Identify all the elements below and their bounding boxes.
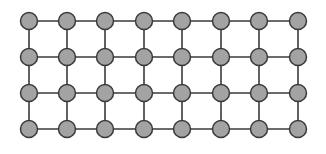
graph-node xyxy=(290,13,307,30)
edges-layer xyxy=(29,21,298,129)
graph-node xyxy=(21,85,38,102)
graph-node xyxy=(213,13,230,30)
graph-node xyxy=(136,121,153,138)
graph-node xyxy=(290,85,307,102)
graph-node xyxy=(21,49,38,66)
grid-graph-diagram xyxy=(0,0,326,154)
graph-node xyxy=(174,85,191,102)
graph-node xyxy=(136,85,153,102)
graph-node xyxy=(251,49,268,66)
graph-node xyxy=(251,121,268,138)
graph-node xyxy=(174,49,191,66)
graph-node xyxy=(290,49,307,66)
graph-node xyxy=(97,121,114,138)
graph-node xyxy=(59,121,76,138)
graph-node xyxy=(136,13,153,30)
graph-node xyxy=(21,121,38,138)
graph-node xyxy=(136,49,153,66)
graph-node xyxy=(213,121,230,138)
graph-node xyxy=(21,13,38,30)
graph-node xyxy=(59,13,76,30)
graph-node xyxy=(59,85,76,102)
nodes-layer xyxy=(21,13,307,138)
graph-node xyxy=(174,121,191,138)
graph-node xyxy=(97,13,114,30)
graph-node xyxy=(174,13,191,30)
graph-node xyxy=(59,49,76,66)
graph-node xyxy=(213,85,230,102)
graph-node xyxy=(97,85,114,102)
graph-node xyxy=(97,49,114,66)
graph-node xyxy=(251,85,268,102)
graph-node xyxy=(213,49,230,66)
graph-node xyxy=(290,121,307,138)
graph-node xyxy=(251,13,268,30)
